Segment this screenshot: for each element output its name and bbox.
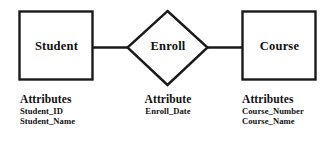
attribute-item: Course_Number — [242, 106, 304, 116]
relationship-label-enroll: Enroll — [127, 40, 209, 53]
attribute-item: Course_Name — [242, 116, 304, 126]
attributes-heading-student: Attributes — [20, 93, 75, 106]
attribute-item: Enroll_Date — [127, 106, 209, 116]
attribute-item: Student_ID — [20, 106, 75, 116]
entity-label-course: Course — [242, 40, 317, 53]
attributes-block-course: Attributes Course_Number Course_Name — [242, 93, 304, 126]
attributes-heading-course: Attributes — [242, 93, 304, 106]
attributes-block-enroll: Attribute Enroll_Date — [127, 93, 209, 116]
er-diagram-canvas: Student Enroll Course Attributes Student… — [0, 0, 326, 143]
attributes-block-student: Attributes Student_ID Student_Name — [20, 93, 75, 126]
attributes-heading-enroll: Attribute — [127, 93, 209, 106]
attribute-item: Student_Name — [20, 116, 75, 126]
entity-label-student: Student — [19, 40, 94, 53]
